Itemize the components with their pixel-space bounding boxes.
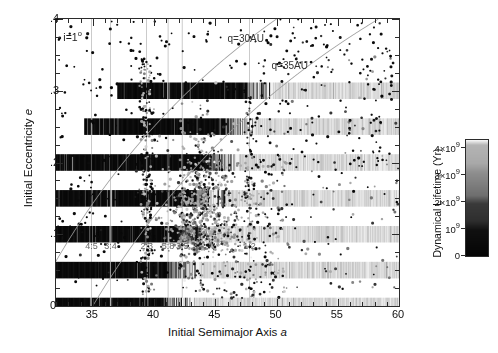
axis-tick [68, 19, 69, 23]
axis-tick [240, 302, 241, 306]
axis-tick [105, 19, 106, 23]
axis-tick [56, 252, 60, 253]
axis-tick [228, 19, 229, 23]
axis-tick [362, 302, 363, 306]
axis-tick [56, 109, 60, 110]
figure-root: i=1oq=30AUq=35AU 4:53:42:35:83:51:2 3540… [0, 0, 498, 353]
axis-tick [56, 288, 60, 289]
axis-tick [56, 127, 60, 128]
colorbar-tick-label: 109 [445, 221, 460, 234]
axis-tick [326, 302, 327, 306]
colorbar [465, 139, 489, 257]
axis-tick [392, 234, 399, 235]
colorbar-tick [461, 255, 465, 256]
axis-tick [240, 19, 241, 23]
axis-tick [215, 299, 216, 306]
axis-tick [142, 19, 143, 23]
axis-tick [277, 19, 278, 26]
axis-tick [93, 19, 94, 26]
axis-tick [392, 91, 399, 92]
y-tick-label: 0 [50, 299, 56, 311]
axis-tick [154, 299, 155, 306]
axis-tick [395, 198, 399, 199]
axis-tick [105, 302, 106, 306]
axis-tick [395, 270, 399, 271]
x-tick-label: 35 [86, 308, 98, 320]
axis-tick [362, 19, 363, 23]
resonance-label-1-2: 1:2 [243, 241, 256, 251]
axis-tick [56, 55, 60, 56]
resonance-label-3-5: 3:5 [176, 241, 189, 251]
axis-tick [392, 306, 399, 307]
axis-tick [392, 163, 399, 164]
colorbar-gradient [466, 140, 488, 256]
axis-tick [395, 73, 399, 74]
axis-tick [301, 19, 302, 23]
colorbar-tick [461, 228, 465, 229]
axis-tick [375, 19, 376, 23]
axis-tick [117, 19, 118, 23]
y-tick-label: .1 [50, 227, 59, 239]
axis-tick [166, 19, 167, 23]
axis-tick [395, 37, 399, 38]
axis-tick [326, 19, 327, 23]
axis-tick [56, 216, 60, 217]
axis-tick [130, 302, 131, 306]
axis-tick [56, 145, 60, 146]
axis-tick [338, 19, 339, 26]
axis-tick [93, 299, 94, 306]
axis-tick [56, 270, 60, 271]
axis-tick [215, 19, 216, 26]
axis-tick [179, 302, 180, 306]
axis-tick [154, 19, 155, 26]
axis-tick [203, 19, 204, 23]
axis-tick [252, 19, 253, 23]
axis-tick [313, 19, 314, 23]
resonance-label-4-5: 4:5 [85, 241, 98, 251]
colorbar-tick-label: 0 [455, 250, 460, 261]
axis-tick [191, 19, 192, 23]
colorbar-title: Dynamical Lifetime (Yr) [431, 103, 443, 303]
axis-tick [56, 37, 60, 38]
colorbar-tick [461, 147, 465, 148]
axis-tick [387, 302, 388, 306]
annotation-inclination: i=1o [63, 29, 81, 43]
axis-tick [130, 19, 131, 23]
axis-tick [277, 299, 278, 306]
axis-tick [387, 19, 388, 23]
axis-tick [264, 19, 265, 23]
x-tick-label: 50 [269, 308, 281, 320]
axis-tick [338, 299, 339, 306]
axis-tick [166, 302, 167, 306]
axis-tick [228, 302, 229, 306]
plot-area: i=1oq=30AUq=35AU 4:53:42:35:83:51:2 [55, 18, 400, 307]
axis-tick [81, 19, 82, 23]
axis-tick [68, 302, 69, 306]
axis-tick [301, 302, 302, 306]
resonance-label-2-3: 2:3 [140, 241, 153, 251]
axis-tick [289, 19, 290, 23]
axis-tick [203, 302, 204, 306]
axis-tick [350, 302, 351, 306]
scatter-canvas [56, 19, 399, 306]
axis-tick [56, 198, 60, 199]
axis-tick [252, 302, 253, 306]
annotation-perihelion-30au: q=30AU [228, 33, 264, 44]
axis-tick [142, 302, 143, 306]
axis-tick [395, 127, 399, 128]
axis-tick [117, 302, 118, 306]
axis-tick [395, 288, 399, 289]
axis-tick [191, 302, 192, 306]
axis-tick [56, 306, 63, 307]
resonance-label-3-4: 3:4 [104, 241, 117, 251]
x-tick-label: 45 [208, 308, 220, 320]
colorbar-tick [461, 201, 465, 202]
axis-tick [264, 302, 265, 306]
axis-tick [399, 299, 400, 306]
axis-tick [289, 302, 290, 306]
annotation-perihelion-35au: q=35AU [272, 60, 308, 71]
axis-tick [395, 145, 399, 146]
axis-tick [56, 180, 60, 181]
y-axis-title: Initial Eccentricity e [22, 68, 34, 248]
axis-tick [81, 302, 82, 306]
